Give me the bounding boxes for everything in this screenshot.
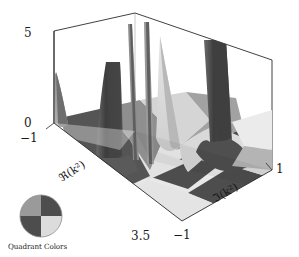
- tick-real-max: 3.5: [131, 229, 150, 243]
- tick-imag-min: −1: [173, 228, 191, 242]
- tick-imag-max: 1: [276, 162, 284, 176]
- axis-label-real: ℜ(k²): [57, 158, 88, 185]
- legend-caption: Quadrant Colors: [8, 242, 67, 251]
- quadrant-color-legend: Quadrant Colors: [8, 195, 67, 251]
- tick-real-min: −1: [20, 131, 38, 145]
- figure-3d-surface-plot: 5 0 −1 3.5 −1 1 ℜ(k²) ℑ(k²) Quadrant Col…: [0, 0, 299, 257]
- tick-z-min: 0: [24, 116, 32, 130]
- plot-canvas: 5 0 −1 3.5 −1 1 ℜ(k²) ℑ(k²) Quadrant Col…: [0, 0, 299, 257]
- tick-z-max: 5: [24, 26, 32, 40]
